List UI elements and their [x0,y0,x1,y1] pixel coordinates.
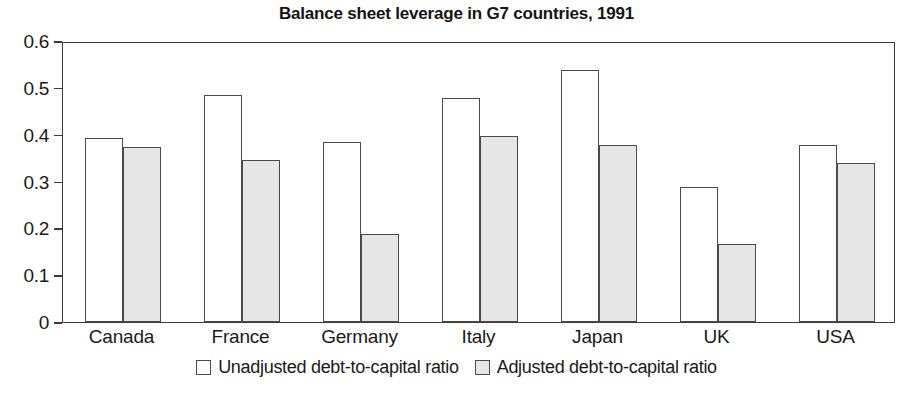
bar-group [301,43,420,322]
x-axis: CanadaFranceGermanyItalyJapanUKUSA [62,326,895,356]
x-axis-label-uk: UK [657,326,776,348]
bar-group [182,43,301,322]
x-axis-label-usa: USA [776,326,895,348]
bar-group [539,43,658,322]
y-axis-tick-mark [54,182,62,184]
bar-chart-figure: Balance sheet leverage in G7 countries, … [0,0,913,393]
bar-canada-adjusted [123,147,161,322]
y-axis-tick-mark [54,41,62,43]
x-axis-label-canada: Canada [62,326,181,348]
legend-swatch-icon [196,360,211,375]
bar-canada-unadjusted [85,138,123,322]
x-axis-label-france: France [181,326,300,348]
y-axis-tick-mark [54,275,62,277]
legend-label: Adjusted debt-to-capital ratio [497,357,717,378]
y-axis-tick-mark [54,228,62,230]
bar-italy-adjusted [480,136,518,322]
y-axis-tick-label: 0.3 [23,172,49,194]
bar-germany-adjusted [361,234,399,322]
bar-group [420,43,539,322]
y-axis-tick-mark [54,88,62,90]
bar-japan-unadjusted [561,70,599,322]
bar-usa-adjusted [837,163,875,322]
bar-italy-unadjusted [442,98,480,322]
bar-france-adjusted [242,160,280,322]
y-axis-tick-label: 0 [39,312,49,334]
y-axis: 0.60.50.40.30.20.10 [0,42,62,323]
bar-france-unadjusted [204,95,242,322]
legend-entry-adjusted[interactable]: Adjusted debt-to-capital ratio [475,357,717,378]
bar-group [658,43,777,322]
y-axis-tick-label: 0.2 [23,218,49,240]
y-axis-tick-mark [54,322,62,324]
y-axis-tick-label: 0.1 [23,265,49,287]
plot-area [62,42,895,323]
bars-layer [63,43,894,322]
x-axis-label-germany: Germany [300,326,419,348]
legend-swatch-icon [475,360,490,375]
y-axis-tick-label: 0.6 [23,31,49,53]
legend-entry-unadjusted[interactable]: Unadjusted debt-to-capital ratio [196,357,459,378]
bar-uk-unadjusted [680,187,718,322]
y-axis-tick-label: 0.4 [23,125,49,147]
bar-germany-unadjusted [323,142,361,322]
y-axis-tick-mark [54,135,62,137]
bar-group [777,43,896,322]
x-axis-label-japan: Japan [538,326,657,348]
bar-japan-adjusted [599,145,637,322]
chart-legend: Unadjusted debt-to-capital ratioAdjusted… [0,357,913,378]
x-axis-label-italy: Italy [419,326,538,348]
chart-title: Balance sheet leverage in G7 countries, … [0,4,913,24]
legend-label: Unadjusted debt-to-capital ratio [218,357,459,378]
y-axis-tick-label: 0.5 [23,78,49,100]
bar-group [63,43,182,322]
bar-uk-adjusted [718,244,756,322]
bar-usa-unadjusted [799,145,837,322]
